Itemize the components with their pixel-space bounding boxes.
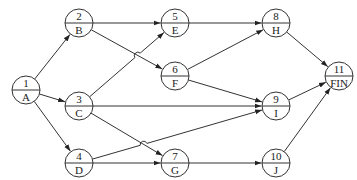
node-activity-label: J [274, 164, 279, 176]
node-number: 11 [334, 63, 345, 75]
node-4: 4D [65, 149, 93, 177]
node-8: 8H [262, 9, 290, 37]
edge-6-to-9 [188, 80, 262, 102]
node-number: 7 [172, 150, 178, 162]
node-1: 1A [12, 76, 40, 104]
network-diagram: 1A2B3C4D5E6F7G8H9I10J11FIN [0, 0, 357, 180]
node-activity-label: F [172, 77, 178, 89]
node-number: 5 [172, 10, 178, 22]
node-activity-label: E [172, 24, 179, 36]
edge-8-to-11 [287, 32, 328, 67]
node-activity-label: H [272, 24, 280, 36]
edge-6-to-8 [187, 30, 263, 70]
nodes-layer: 1A2B3C4D5E6F7G8H9I10J11FIN [12, 9, 353, 177]
node-activity-label: D [75, 164, 83, 176]
node-activity-label: I [274, 107, 278, 119]
node-number: 1 [23, 77, 29, 89]
node-activity-label: B [75, 24, 82, 36]
node-activity-label: G [171, 164, 179, 176]
node-7: 7G [161, 149, 189, 177]
node-number: 3 [76, 93, 82, 105]
node-number: 4 [76, 150, 82, 162]
node-6: 6F [161, 62, 189, 90]
node-number: 8 [273, 10, 279, 22]
node-activity-label: C [75, 107, 82, 119]
node-2: 2B [65, 9, 93, 37]
node-10: 10J [262, 149, 290, 177]
edge-3-to-5 [90, 33, 164, 97]
node-number: 6 [172, 63, 178, 75]
node-activity-label: FIN [330, 77, 348, 89]
edge-10-to-11 [284, 88, 330, 152]
edge-1-to-2 [35, 34, 70, 79]
edge-9-to-11 [289, 82, 326, 100]
edge-1-to-3 [39, 94, 65, 102]
edge-2-to-6 [91, 30, 162, 69]
node-activity-label: A [22, 91, 30, 103]
node-9: 9I [262, 92, 290, 120]
node-3: 3C [65, 92, 93, 120]
node-number: 2 [76, 10, 82, 22]
node-5: 5E [161, 9, 189, 37]
node-number: 10 [271, 150, 283, 162]
node-11: 11FIN [325, 62, 353, 90]
node-number: 9 [273, 93, 279, 105]
